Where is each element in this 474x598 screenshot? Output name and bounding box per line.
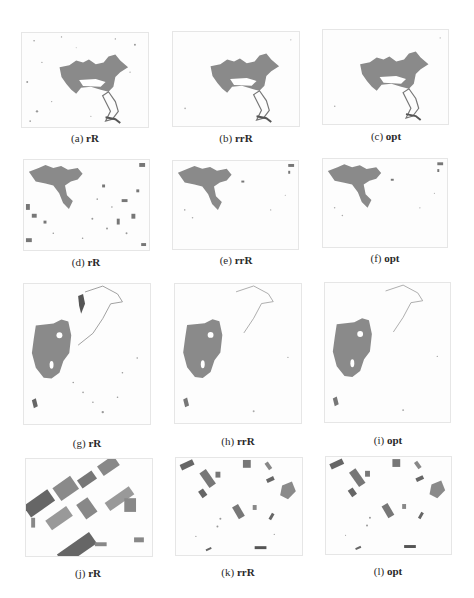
- method-label: opt: [384, 252, 399, 264]
- panel-letter: (f): [370, 252, 381, 264]
- panel-l-caption: (l) opt: [318, 565, 458, 577]
- panel-letter: (i): [374, 434, 384, 446]
- panel-d-image: [23, 159, 150, 251]
- panel-letter: (e): [220, 254, 232, 266]
- method-label: rrR: [237, 566, 255, 578]
- panel-l-image: [325, 456, 452, 555]
- island-segmentation-image: [175, 284, 301, 423]
- panel-letter: (h): [221, 435, 234, 447]
- panel-i-image: [324, 282, 451, 423]
- lake-segmentation-image: [323, 30, 448, 124]
- panel-e-image: [172, 160, 299, 250]
- panel-letter: (c): [371, 130, 383, 142]
- panel-h-image: [174, 283, 302, 424]
- method-label: rrR: [235, 254, 253, 266]
- method-label: opt: [387, 565, 402, 577]
- panel-g-caption: (g) rR: [17, 437, 157, 449]
- panel-f-caption: (f) opt: [315, 252, 455, 264]
- panel-letter: (a): [71, 132, 83, 144]
- panel-e-caption: (e) rrR: [166, 254, 306, 266]
- panel-letter: (d): [72, 256, 85, 268]
- fields-segmentation-image: [26, 459, 152, 556]
- panel-j-image: [25, 458, 153, 557]
- panel-a-caption: (a) rR: [15, 132, 155, 144]
- lake-segmentation-image: [173, 32, 299, 126]
- panel-f-image: [322, 158, 448, 248]
- panel-c-image: [322, 29, 449, 125]
- panel-h-caption: (h) rrR: [168, 435, 308, 447]
- fields-segmentation-image: [326, 457, 451, 554]
- panel-c-caption: (c) opt: [316, 130, 456, 142]
- lake-crop-segmentation-image: [24, 160, 149, 250]
- panel-d-caption: (d) rR: [16, 256, 156, 268]
- lake-segmentation-image: [22, 33, 148, 127]
- method-label: rR: [88, 567, 101, 579]
- panel-g-image: [23, 283, 151, 425]
- panel-i-caption: (i) opt: [318, 434, 458, 446]
- panel-letter: (k): [221, 566, 234, 578]
- method-label: rrR: [237, 435, 255, 447]
- panel-letter: (b): [219, 132, 232, 144]
- method-label: opt: [386, 130, 401, 142]
- island-segmentation-image: [325, 283, 450, 422]
- method-label: rR: [87, 256, 100, 268]
- panel-k-image: [175, 457, 303, 556]
- panel-letter: (l): [374, 565, 384, 577]
- method-label: opt: [387, 434, 402, 446]
- method-label: rR: [86, 132, 99, 144]
- panel-a-image: [21, 32, 149, 128]
- panel-letter: (g): [73, 437, 86, 449]
- lake-crop-segmentation-image: [323, 159, 447, 247]
- fields-segmentation-image: [176, 458, 302, 555]
- panel-b-caption: (b) rrR: [166, 132, 306, 144]
- lake-crop-segmentation-image: [173, 161, 298, 249]
- method-label: rrR: [235, 132, 253, 144]
- island-segmentation-image: [24, 284, 150, 424]
- panel-letter: (j): [75, 567, 85, 579]
- panel-b-image: [172, 31, 300, 127]
- panel-j-caption: (j) rR: [18, 567, 158, 579]
- method-label: rR: [88, 437, 101, 449]
- panel-k-caption: (k) rrR: [168, 566, 308, 578]
